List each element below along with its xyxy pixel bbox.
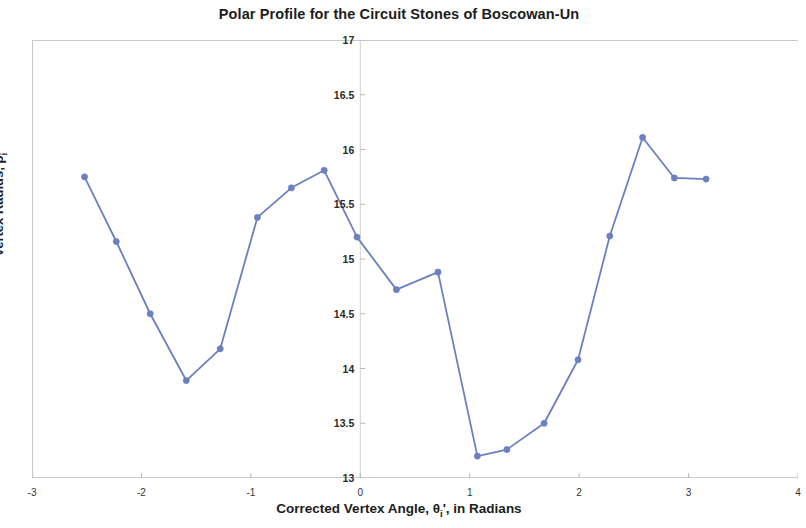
data-point (183, 377, 189, 383)
data-point (81, 174, 87, 180)
y-axis-title: Vertex Radius, ρi (0, 115, 9, 295)
y-tick-label: 13.5 (314, 417, 354, 429)
x-axis-title-suffix: ', in Radians (443, 501, 522, 516)
data-point (504, 446, 510, 452)
y-tick-label: 15 (314, 253, 354, 265)
tick-marks (32, 40, 798, 478)
y-tick-label: 16 (314, 144, 354, 156)
y-tick-label: 14 (314, 363, 354, 375)
data-point (607, 233, 613, 239)
x-axis-title: Corrected Vertex Angle, θi', in Radians (0, 501, 798, 519)
x-tick-label: 2 (564, 487, 594, 498)
x-axis-title-text: Corrected Vertex Angle, θ (276, 501, 440, 516)
x-tick-label: -1 (236, 487, 266, 498)
data-point (671, 175, 677, 181)
x-tick-label: 0 (345, 487, 375, 498)
data-point (393, 287, 399, 293)
x-tick-label: 4 (783, 487, 806, 498)
data-point (541, 420, 547, 426)
data-point (474, 453, 480, 459)
data-point (354, 234, 360, 240)
y-axis-title-text: Vertex Radius, ρ (0, 155, 6, 256)
data-point (321, 167, 327, 173)
x-tick-label: -2 (126, 487, 156, 498)
x-tick-label: -3 (17, 487, 47, 498)
axis-frame (32, 40, 798, 478)
data-point (254, 214, 260, 220)
data-point (575, 357, 581, 363)
data-point (217, 346, 223, 352)
y-tick-label: 14.5 (314, 308, 354, 320)
data-point (435, 269, 441, 275)
x-tick-label: 1 (455, 487, 485, 498)
y-tick-label: 17 (314, 34, 354, 46)
y-tick-label: 16.5 (314, 89, 354, 101)
data-point-markers (81, 134, 709, 459)
data-series-line (85, 137, 707, 456)
y-tick-label: 15.5 (314, 198, 354, 210)
chart-title: Polar Profile for the Circuit Stones of … (0, 6, 798, 22)
plot-area (32, 40, 798, 478)
data-point (147, 311, 153, 317)
x-tick-label: 3 (674, 487, 704, 498)
y-axis-title-subscript: i (0, 153, 9, 156)
plot-canvas (32, 40, 798, 478)
data-point (288, 185, 294, 191)
data-point (703, 176, 709, 182)
data-point (113, 238, 119, 244)
y-tick-label: 13 (314, 472, 354, 484)
data-point (640, 134, 646, 140)
